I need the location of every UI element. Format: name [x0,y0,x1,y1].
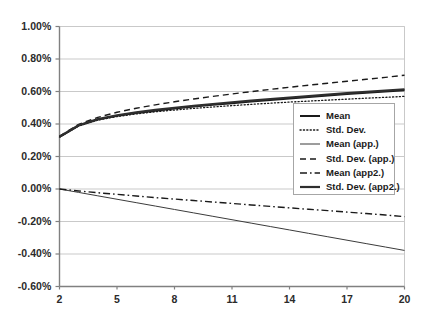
legend-item-5[interactable]: Std. Dev. (app2.) [299,180,400,194]
legend-swatch-icon [299,153,321,165]
x-tick-label: 8 [155,293,195,305]
y-tick-label: 0.60% [0,85,52,97]
legend-item-4[interactable]: Mean (app2.) [299,166,384,180]
y-tick-label: 0.20% [0,150,52,162]
legend-label: Mean (app.) [326,138,379,150]
y-tick-label: -0.60% [0,280,52,292]
legend-swatch-icon [299,138,321,150]
legend-label: Std. Dev. (app.) [326,153,394,165]
legend-swatch-icon [299,167,321,179]
legend-item-0[interactable]: Mean [299,109,350,123]
legend-swatch-icon [299,110,321,122]
series-line-2 [60,189,405,250]
x-tick-label: 5 [97,293,137,305]
chart-legend: MeanStd. Dev.Mean (app.)Std. Dev. (app.)… [293,103,395,195]
legend-item-2[interactable]: Mean (app.) [299,137,379,151]
y-tick-label: 0.80% [0,52,52,64]
y-tick-label: 0.40% [0,117,52,129]
y-tick-label: 1.00% [0,20,52,32]
x-tick-label: 11 [212,293,252,305]
y-tick-label: 0.00% [0,182,52,194]
legend-item-3[interactable]: Std. Dev. (app.) [299,152,394,166]
legend-label: Std. Dev. (app2.) [326,181,400,193]
x-tick-label: 17 [327,293,367,305]
legend-swatch-icon [299,181,321,193]
legend-label: Std. Dev. [326,124,366,136]
legend-label: Mean [326,110,350,122]
line-chart: -0.60%-0.40%-0.20%0.00%0.20%0.40%0.60%0.… [0,0,432,316]
legend-item-1[interactable]: Std. Dev. [299,123,366,137]
legend-label: Mean (app2.) [326,167,384,179]
x-tick-label: 14 [270,293,310,305]
y-tick-label: -0.20% [0,215,52,227]
x-tick-label: 20 [385,293,425,305]
x-tick-label: 2 [40,293,80,305]
y-tick-label: -0.40% [0,247,52,259]
legend-swatch-icon [299,124,321,136]
